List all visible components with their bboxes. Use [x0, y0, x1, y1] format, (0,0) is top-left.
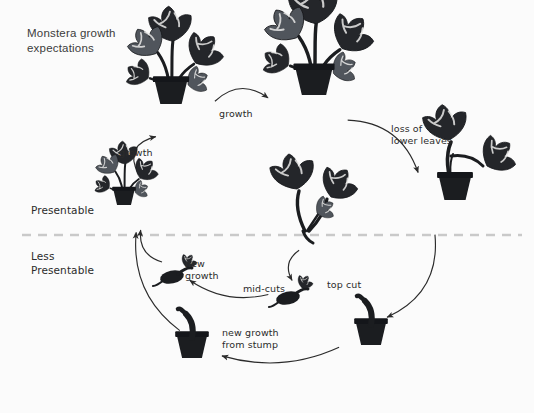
- monstera-mature-plant: [257, 0, 381, 95]
- plant-layer: [91, 0, 523, 358]
- monstera-medium-plant: [121, 5, 230, 104]
- monstera-resprouting-stump: [175, 309, 209, 358]
- monstera-stump-in-pot: [354, 296, 388, 345]
- monstera-leggy-plant: [421, 102, 523, 200]
- zone-label-less-presentable: Less Presentable: [31, 249, 94, 277]
- edge-label-stump-growth: new growth from stump: [222, 327, 279, 351]
- zone-label-presentable: Presentable: [31, 203, 94, 217]
- edge-label-mid-cuts: mid-cuts: [243, 283, 285, 295]
- edge-label-loss: loss of lower leaves: [391, 123, 452, 147]
- arrow-a-leggy-to-stump: [387, 235, 435, 318]
- edge-label-top-cut: top cut: [327, 279, 361, 291]
- edge-label-growth-top: growth: [219, 108, 253, 120]
- edge-label-growth-left: growth: [119, 147, 153, 159]
- monstera-top-cuttings: [268, 150, 363, 243]
- edge-label-new-growth: new growth: [185, 258, 219, 282]
- arrow-a-cuttings-to-mid: [288, 250, 299, 280]
- arrow-a-medium-to-mature: [215, 89, 268, 102]
- diagram-canvas: Monstera growth expectations Presentable…: [0, 0, 534, 413]
